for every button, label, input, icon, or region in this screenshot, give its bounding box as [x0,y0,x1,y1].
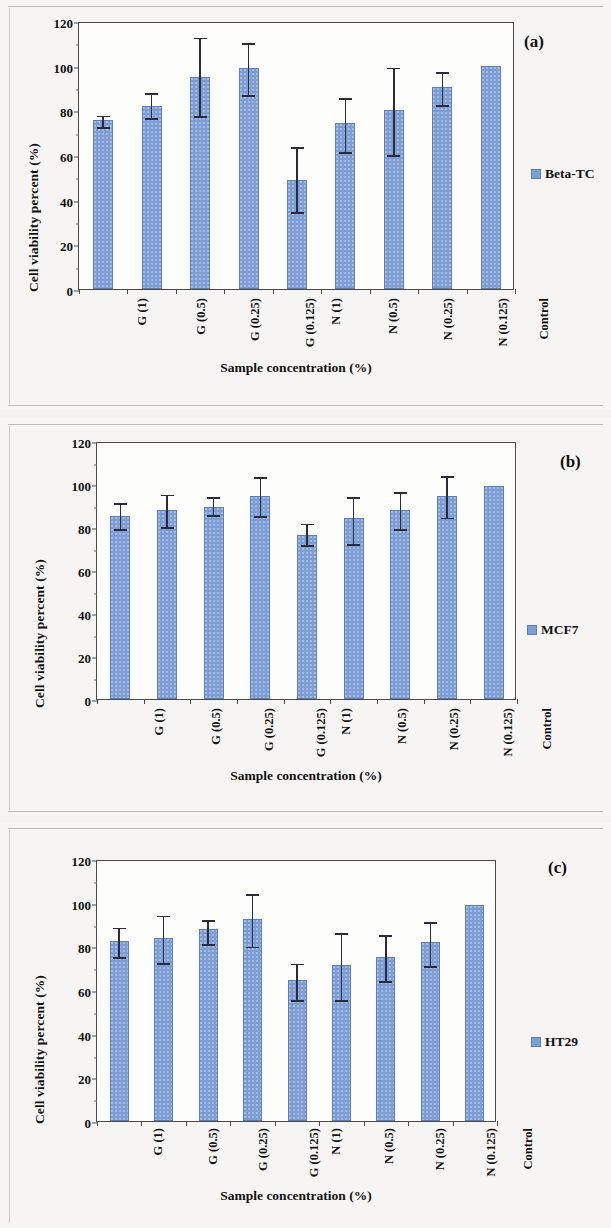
error-bar-cap-upper [242,43,255,45]
y-tick-mark [74,157,79,158]
x-tick-mark [515,289,516,294]
error-bar [422,922,438,968]
error-bar-stem [345,98,347,154]
y-tick-label: 80 [78,523,91,536]
error-bar-cap-lower [97,127,110,129]
y-tick-minor [94,1013,97,1014]
error-bar [386,68,402,157]
bar [484,486,504,699]
error-bar-cap-upper [246,894,259,896]
y-tick-minor [94,679,97,680]
x-tick-mark [364,1121,365,1126]
y-tick-mark [92,615,97,616]
error-bar [439,476,455,519]
y-tick-mark [92,992,97,993]
error-bar-cap-upper [161,495,174,497]
x-axis-title: Sample concentration (%) [96,1188,496,1204]
x-tick-mark [418,289,419,294]
error-bar [289,147,305,214]
x-tick-mark [186,1121,187,1126]
error-bar-stem [400,492,402,531]
y-tick-mark [92,1035,97,1036]
error-bar-cap-lower [347,544,360,546]
y-tick-label: 60 [78,566,91,579]
error-bar-cap-lower [113,957,126,959]
error-bar-stem [118,928,120,960]
error-bar-stem [296,147,298,214]
error-bar-cap-lower [335,1000,348,1002]
y-axis-title: Cell viability percent (%) [32,559,48,708]
x-tick-label: G (0.125) [315,708,330,757]
error-bar-cap-upper [207,497,220,499]
x-tick-label: Control [537,298,552,339]
bar [421,942,440,1121]
x-tick-label: G (0.125) [307,1128,322,1177]
y-tick-minor [76,268,79,269]
error-bar-stem [163,916,165,965]
x-tick-mark [370,289,371,294]
x-tick-label: G (0.125) [303,298,318,347]
y-tick-label: 100 [54,61,74,74]
error-bar-cap-lower [207,515,220,517]
error-bar [434,72,450,107]
error-bar-stem [296,964,298,1002]
bar [199,929,218,1121]
x-tick-mark [224,289,225,294]
bar [465,905,484,1121]
error-bar-stem [430,922,432,968]
y-tick-mark [92,572,97,573]
error-bar-cap-lower [242,95,255,97]
error-bar-cap-upper [394,492,407,494]
y-axis-title: Cell viability percent (%) [26,143,42,292]
error-bar-cap-upper [441,476,454,478]
x-tick-label: N (0.5) [383,1128,398,1164]
x-tick-mark [275,1121,276,1126]
bar [243,919,262,1121]
x-tick-mark [377,699,378,704]
x-tick-label: N (0.5) [387,298,402,334]
x-tick-mark [79,289,80,294]
legend: HT29 [531,1034,578,1050]
error-bar-stem [306,524,308,548]
x-tick-mark [319,1121,320,1126]
legend-swatch [531,169,541,179]
y-tick-minor [94,882,97,883]
error-bar-cap-lower [387,155,400,157]
y-tick-mark [92,904,97,905]
error-bar-cap-lower [379,981,392,983]
error-bar-stem [199,38,201,118]
x-tick-mark [237,699,238,704]
error-bar-cap-lower [202,944,215,946]
legend-label: Beta-TC [545,166,595,182]
chart-c: Cell viability percent (%)02040608010012… [0,822,611,1228]
error-bar [206,497,222,517]
y-tick-label: 0 [85,1117,92,1130]
x-axis-title: Sample concentration (%) [78,360,514,376]
error-bar-cap-lower [301,545,314,547]
error-bar-cap-lower [436,105,449,107]
y-tick-label: 20 [78,1073,91,1086]
error-bar-cap-lower [291,212,304,214]
x-tick-label: N (0.125) [484,1128,499,1177]
error-bar-cap-upper [291,147,304,149]
y-tick-label: 100 [72,480,92,493]
x-tick-label: G (1) [136,298,151,325]
panel-b: Cell viability percent (%)02040608010012… [0,418,611,816]
plot-area: 020406080100120 [96,442,516,700]
error-bar-cap-upper [387,68,400,70]
error-bar-stem [213,497,215,517]
error-bar [156,916,172,965]
bar [154,938,173,1121]
x-tick-label: Control [521,1128,536,1169]
x-tick-label: N (0.125) [501,708,516,757]
y-axis-title: Cell viability percent (%) [32,975,48,1124]
x-tick-label: N (0.25) [441,298,456,340]
error-bar-stem [393,68,395,157]
error-bar [159,495,175,529]
y-tick-mark [74,201,79,202]
error-bar-stem [252,894,254,949]
y-tick-mark [74,246,79,247]
error-bar-cap-upper [145,93,158,95]
error-bar-cap-upper [379,935,392,937]
x-tick-mark [97,699,98,704]
